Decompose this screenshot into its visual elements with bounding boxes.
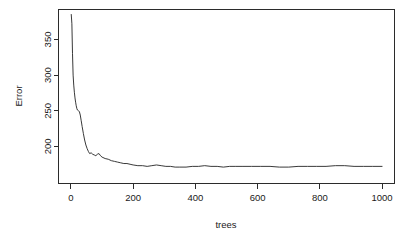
error-vs-trees-plot: 200250300350 02004006008001000 Error tre… — [0, 0, 414, 244]
x-tick-label-200: 200 — [125, 192, 141, 203]
y-tick-label-200: 200 — [42, 138, 53, 154]
series-line-0 — [71, 14, 382, 167]
y-tick-group — [54, 39, 59, 146]
y-axis-title: Error — [13, 85, 24, 106]
x-axis-title: trees — [215, 219, 236, 230]
x-tick-label-0: 0 — [68, 192, 73, 203]
x-tick-label-800: 800 — [312, 192, 328, 203]
x-tick-label-600: 600 — [250, 192, 266, 203]
plot-panel-box — [59, 10, 395, 184]
x-tick-label-1000: 1000 — [371, 192, 392, 203]
x-tick-label-400: 400 — [187, 192, 203, 203]
y-tick-label-250: 250 — [42, 103, 53, 119]
y-tick-label-group: 200250300350 — [42, 32, 53, 155]
chart-figure: 200250300350 02004006008001000 Error tre… — [0, 0, 414, 244]
x-tick-label-group: 02004006008001000 — [68, 192, 392, 203]
y-tick-label-300: 300 — [42, 67, 53, 83]
series-group — [71, 14, 382, 167]
x-tick-group — [71, 184, 382, 189]
y-tick-label-350: 350 — [42, 32, 53, 48]
